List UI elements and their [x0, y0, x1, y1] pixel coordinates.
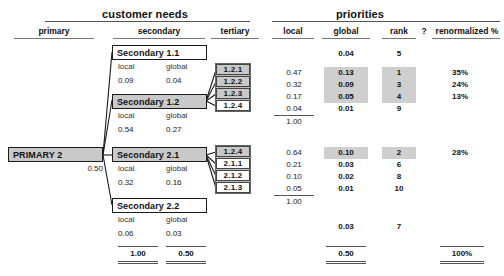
renorm-total-rule-bottom2 [440, 263, 484, 264]
column-header-rank: rank [382, 26, 416, 36]
secondary-2-1-global-label: global [166, 164, 206, 173]
priority-renorm-g1-r1: 35% [432, 68, 488, 77]
priority-local-g1-r2: 0.32 [272, 80, 316, 89]
group-1-local-total-rule [274, 115, 314, 116]
secondary-1-1-global-label: global [166, 62, 206, 71]
section-title-customer-needs: customer needs [45, 8, 245, 20]
rank-header-rule [382, 38, 416, 39]
node-secondary-2-1-label: Secondary 2.1 [117, 150, 179, 160]
column-header-local: local [272, 26, 314, 36]
tertiary-header-rule [211, 38, 259, 39]
priority-global-g1-r1: 0.13 [324, 68, 368, 77]
tertiary-box-1-2-4-b[interactable]: 1.2.4 [216, 146, 250, 157]
tertiary-box-1-2-4-a-label: 1.2.4 [224, 101, 243, 110]
tertiary-box-1-2-4-a[interactable]: 1.2.4 [216, 100, 250, 111]
node-secondary-2-2[interactable]: Secondary 2.2 [112, 198, 207, 213]
secondary-header-rule [113, 38, 205, 39]
priority-renorm-g1-r2: 24% [432, 80, 488, 89]
tertiary-box-1-2-3[interactable]: 1.2.3 [216, 88, 250, 99]
tertiary-box-1-2-2[interactable]: 1.2.2 [216, 76, 250, 87]
tertiary-box-1-2-1[interactable]: 1.2.1 [216, 64, 250, 75]
priority-local-g2-r2: 0.21 [272, 160, 316, 169]
secondary-global-total-rule-bottom [166, 261, 206, 262]
secondary-1-1-global-value: 0.04 [166, 76, 206, 85]
node-secondary-1-2[interactable]: Secondary 1.2 [112, 94, 207, 109]
priority-global-g2-r1: 0.10 [324, 148, 368, 157]
node-secondary-1-1-label: Secondary 1.1 [117, 48, 179, 58]
secondary-2-2-local-label: local [118, 215, 158, 224]
tertiary-box-1-2-4-b-label: 1.2.4 [224, 147, 243, 156]
column-header-tertiary: tertiary [211, 26, 259, 36]
priority-rank-g1-r4: 9 [382, 104, 416, 113]
priority-renorm-g1-r3: 13% [432, 92, 488, 101]
node-primary-2-label: PRIMARY 2 [13, 150, 62, 160]
secondary-2-2-global-label: global [166, 215, 206, 224]
primary-2-weight: 0.50 [43, 164, 103, 173]
priority-global-g2-r3: 0.02 [324, 172, 368, 181]
renorm-total-rule-top [440, 246, 484, 247]
secondary-2-2-local-value: 0.06 [118, 229, 158, 238]
priority-local-g1-r4: 0.04 [272, 104, 316, 113]
priorities-rule [272, 21, 500, 22]
secondary-1-2-global-value: 0.27 [166, 125, 206, 134]
priority-rank-g1-r2: 3 [382, 80, 416, 89]
secondary-1-2-global-label: global [166, 111, 206, 120]
tertiary-box-2-1-1-label: 2.1.1 [224, 159, 243, 168]
tertiary-box-2-1-1[interactable]: 2.1.1 [216, 158, 250, 169]
column-header-secondary: secondary [113, 26, 205, 36]
secondary-1-2-local-value: 0.54 [118, 125, 158, 134]
secondary-1-2-local-label: local [118, 111, 158, 120]
priority-rank-g2-r4: 10 [382, 184, 416, 193]
node-secondary-1-1[interactable]: Secondary 1.1 [112, 45, 207, 60]
global-header-rule [322, 38, 370, 39]
priority-global-total: 0.50 [324, 249, 368, 258]
priority-rank-g1-r3: 4 [382, 92, 416, 101]
secondary-1-1-local-value: 0.09 [118, 76, 158, 85]
secondary-1-1-local-label: local [118, 62, 158, 71]
tertiary-box-1-2-1-label: 1.2.1 [224, 65, 243, 74]
secondary-local-total: 1.00 [118, 249, 158, 258]
column-header-question: ? [419, 26, 429, 36]
priority-rank-g2-r1: 2 [382, 148, 416, 157]
global-total-rule-bottom [326, 261, 366, 262]
priority-global-g1-r3: 0.05 [324, 92, 368, 101]
secondary-global-total-rule-top [166, 246, 206, 247]
priority-local-g2-r4: 0.05 [272, 184, 316, 193]
priority-renorm-total: 100% [438, 249, 486, 258]
priority-global-secondary-1-1: 0.04 [324, 49, 368, 58]
node-primary-2[interactable]: PRIMARY 2 [8, 147, 103, 162]
priority-rank-g1-r1: 1 [382, 68, 416, 77]
priority-local-g2-total: 1.00 [272, 197, 316, 206]
global-total-rule-bottom2 [326, 263, 366, 264]
secondary-global-total: 0.50 [166, 249, 206, 258]
tertiary-box-1-2-2-label: 1.2.2 [224, 77, 243, 86]
column-header-renormalized: renormalized % [432, 26, 502, 36]
column-header-global: global [322, 26, 370, 36]
priority-global-g1-r4: 0.01 [324, 104, 368, 113]
local-header-rule [272, 38, 314, 39]
priority-local-g1-r3: 0.17 [272, 92, 316, 101]
priority-global-g2-r2: 0.03 [324, 160, 368, 169]
priority-local-g2-r1: 0.64 [272, 148, 316, 157]
secondary-local-total-rule-top [118, 246, 158, 247]
secondary-2-2-global-value: 0.03 [166, 229, 206, 238]
priority-global-secondary-2-2: 0.03 [324, 222, 368, 231]
priority-local-g2-r3: 0.10 [272, 172, 316, 181]
tertiary-box-2-1-3-label: 2.1.3 [224, 183, 243, 192]
priority-global-g1-r2: 0.09 [324, 80, 368, 89]
tertiary-box-1-2-3-label: 1.2.3 [224, 89, 243, 98]
priority-rank-g2-r2: 6 [382, 160, 416, 169]
priority-rank-secondary-1-1: 5 [382, 49, 416, 58]
secondary-2-1-global-value: 0.16 [166, 178, 206, 187]
tertiary-box-2-1-3[interactable]: 2.1.3 [216, 182, 250, 193]
renorm-total-rule-bottom [440, 261, 484, 262]
tree-connectors [0, 0, 504, 276]
secondary-local-total-rule-bottom [118, 261, 158, 262]
priority-rank-g2-r3: 8 [382, 172, 416, 181]
tertiary-box-2-1-2[interactable]: 2.1.2 [216, 170, 250, 181]
node-secondary-1-2-label: Secondary 1.2 [117, 97, 179, 107]
priority-local-g1-total: 1.00 [272, 117, 316, 126]
node-secondary-2-1[interactable]: Secondary 2.1 [112, 147, 207, 162]
group-2-local-total-rule [274, 195, 314, 196]
priority-local-g1-r1: 0.47 [272, 68, 316, 77]
